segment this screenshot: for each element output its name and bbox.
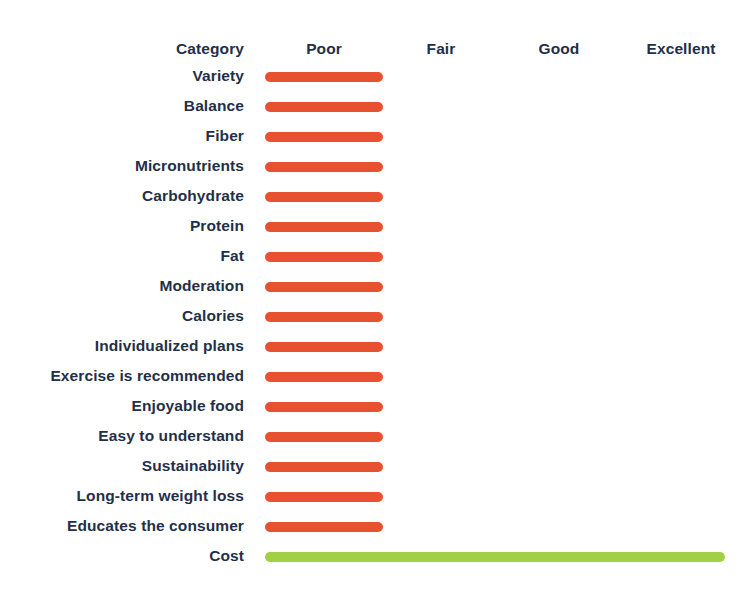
rating-bar-chart: Category PoorFairGoodExcellent VarietyBa… xyxy=(0,0,749,595)
bar-poor xyxy=(265,132,383,142)
bar-track xyxy=(265,371,725,383)
chart-row: Protein xyxy=(0,216,749,246)
bar-track xyxy=(265,431,725,443)
row-label-easy-to-understand: Easy to understand xyxy=(98,427,244,445)
bar-poor xyxy=(265,492,383,502)
row-label-individualized-plans: Individualized plans xyxy=(95,337,244,355)
bar-track xyxy=(265,491,725,503)
bar-track xyxy=(265,131,725,143)
chart-rows: VarietyBalanceFiberMicronutrientsCarbohy… xyxy=(0,66,749,576)
row-label-calories: Calories xyxy=(182,307,244,325)
row-label-enjoyable-food: Enjoyable food xyxy=(132,397,245,415)
chart-row: Enjoyable food xyxy=(0,396,749,426)
row-label-long-term-weight-loss: Long-term weight loss xyxy=(77,487,244,505)
bar-track xyxy=(265,551,725,563)
bar-track xyxy=(265,221,725,233)
bar-poor xyxy=(265,342,383,352)
row-label-exercise-is-recommended: Exercise is recommended xyxy=(50,367,244,385)
chart-row: Individualized plans xyxy=(0,336,749,366)
row-label-moderation: Moderation xyxy=(159,277,244,295)
chart-row: Cost xyxy=(0,546,749,576)
chart-row: Moderation xyxy=(0,276,749,306)
row-label-cost: Cost xyxy=(209,547,244,565)
chart-row: Carbohydrate xyxy=(0,186,749,216)
column-header-excellent: Excellent xyxy=(647,40,716,58)
chart-row: Variety xyxy=(0,66,749,96)
bar-poor xyxy=(265,312,383,322)
bar-poor xyxy=(265,192,383,202)
bar-track xyxy=(265,281,725,293)
chart-row: Sustainability xyxy=(0,456,749,486)
bar-poor xyxy=(265,372,383,382)
bar-poor xyxy=(265,462,383,472)
chart-row: Educates the consumer xyxy=(0,516,749,546)
row-label-fiber: Fiber xyxy=(206,127,244,145)
bar-track xyxy=(265,71,725,83)
column-header-category: Category xyxy=(176,40,244,58)
bar-poor xyxy=(265,102,383,112)
row-label-variety: Variety xyxy=(192,67,244,85)
row-label-sustainability: Sustainability xyxy=(142,457,244,475)
bar-poor xyxy=(265,282,383,292)
bar-poor xyxy=(265,252,383,262)
row-label-balance: Balance xyxy=(184,97,244,115)
chart-row: Micronutrients xyxy=(0,156,749,186)
bar-track xyxy=(265,461,725,473)
bar-track xyxy=(265,191,725,203)
row-label-carbohydrate: Carbohydrate xyxy=(142,187,244,205)
bar-poor xyxy=(265,522,383,532)
bar-poor xyxy=(265,432,383,442)
chart-row: Fat xyxy=(0,246,749,276)
bar-poor xyxy=(265,162,383,172)
row-label-protein: Protein xyxy=(190,217,244,235)
bar-track xyxy=(265,521,725,533)
row-label-educates-the-consumer: Educates the consumer xyxy=(67,517,244,535)
chart-row: Balance xyxy=(0,96,749,126)
column-header-good: Good xyxy=(539,40,580,58)
column-header-poor: Poor xyxy=(306,40,342,58)
chart-row: Exercise is recommended xyxy=(0,366,749,396)
bar-track xyxy=(265,401,725,413)
chart-row: Fiber xyxy=(0,126,749,156)
bar-excellent xyxy=(265,552,725,562)
chart-row: Easy to understand xyxy=(0,426,749,456)
bar-poor xyxy=(265,402,383,412)
row-label-fat: Fat xyxy=(220,247,244,265)
bar-poor xyxy=(265,222,383,232)
bar-poor xyxy=(265,72,383,82)
column-header-fair: Fair xyxy=(427,40,456,58)
row-label-micronutrients: Micronutrients xyxy=(135,157,244,175)
bar-track xyxy=(265,101,725,113)
bar-track xyxy=(265,341,725,353)
chart-header-row: Category PoorFairGoodExcellent xyxy=(0,40,749,62)
bar-track xyxy=(265,161,725,173)
bar-track xyxy=(265,251,725,263)
chart-row: Calories xyxy=(0,306,749,336)
chart-row: Long-term weight loss xyxy=(0,486,749,516)
bar-track xyxy=(265,311,725,323)
